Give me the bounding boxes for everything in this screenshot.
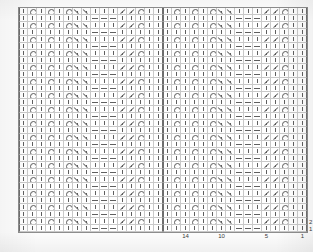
chart-cell[interactable] xyxy=(64,127,73,134)
chart-cell[interactable] xyxy=(154,99,163,106)
chart-cell[interactable] xyxy=(208,162,217,169)
chart-cell[interactable] xyxy=(28,22,37,29)
chart-cell[interactable] xyxy=(235,155,244,162)
chart-cell[interactable] xyxy=(19,29,28,36)
chart-cell[interactable] xyxy=(226,120,235,127)
chart-cell[interactable] xyxy=(154,169,163,176)
chart-cell[interactable] xyxy=(136,78,145,85)
chart-cell[interactable] xyxy=(298,190,307,197)
chart-cell[interactable] xyxy=(127,15,136,22)
chart-cell[interactable] xyxy=(199,148,208,155)
chart-cell[interactable] xyxy=(109,85,118,92)
chart-cell[interactable] xyxy=(127,92,136,99)
chart-cell[interactable] xyxy=(208,211,217,218)
chart-cell[interactable] xyxy=(208,225,217,232)
chart-cell[interactable] xyxy=(163,204,172,211)
chart-cell[interactable] xyxy=(154,127,163,134)
chart-cell[interactable] xyxy=(280,190,289,197)
chart-cell[interactable] xyxy=(190,85,199,92)
chart-cell[interactable] xyxy=(91,197,100,204)
chart-cell[interactable] xyxy=(28,141,37,148)
chart-cell[interactable] xyxy=(109,218,118,225)
chart-cell[interactable] xyxy=(226,148,235,155)
chart-cell[interactable] xyxy=(109,64,118,71)
chart-cell[interactable] xyxy=(271,225,280,232)
chart-cell[interactable] xyxy=(91,64,100,71)
chart-cell[interactable] xyxy=(208,176,217,183)
chart-cell[interactable] xyxy=(244,155,253,162)
chart-cell[interactable] xyxy=(289,36,298,43)
chart-cell[interactable] xyxy=(208,148,217,155)
chart-cell[interactable] xyxy=(199,190,208,197)
chart-cell[interactable] xyxy=(145,8,154,15)
chart-cell[interactable] xyxy=(181,218,190,225)
chart-cell[interactable] xyxy=(244,99,253,106)
chart-cell[interactable] xyxy=(91,169,100,176)
chart-cell[interactable] xyxy=(145,148,154,155)
chart-cell[interactable] xyxy=(118,204,127,211)
chart-cell[interactable] xyxy=(235,141,244,148)
chart-cell[interactable] xyxy=(172,204,181,211)
chart-cell[interactable] xyxy=(73,43,82,50)
chart-cell[interactable] xyxy=(91,218,100,225)
chart-cell[interactable] xyxy=(199,120,208,127)
chart-cell[interactable] xyxy=(145,190,154,197)
chart-cell[interactable] xyxy=(127,85,136,92)
chart-cell[interactable] xyxy=(262,204,271,211)
chart-cell[interactable] xyxy=(262,225,271,232)
chart-cell[interactable] xyxy=(136,8,145,15)
chart-cell[interactable] xyxy=(244,197,253,204)
chart-cell[interactable] xyxy=(19,36,28,43)
chart-cell[interactable] xyxy=(28,211,37,218)
chart-cell[interactable] xyxy=(37,22,46,29)
chart-cell[interactable] xyxy=(19,64,28,71)
chart-cell[interactable] xyxy=(46,218,55,225)
chart-cell[interactable] xyxy=(208,22,217,29)
chart-cell[interactable] xyxy=(28,134,37,141)
chart-cell[interactable] xyxy=(181,85,190,92)
chart-cell[interactable] xyxy=(262,169,271,176)
chart-cell[interactable] xyxy=(163,85,172,92)
chart-cell[interactable] xyxy=(298,120,307,127)
chart-cell[interactable] xyxy=(100,78,109,85)
chart-cell[interactable] xyxy=(262,113,271,120)
chart-cell[interactable] xyxy=(163,197,172,204)
chart-cell[interactable] xyxy=(199,176,208,183)
chart-cell[interactable] xyxy=(82,106,91,113)
chart-cell[interactable] xyxy=(136,218,145,225)
chart-cell[interactable] xyxy=(73,127,82,134)
chart-cell[interactable] xyxy=(82,57,91,64)
chart-cell[interactable] xyxy=(73,197,82,204)
chart-cell[interactable] xyxy=(280,204,289,211)
chart-cell[interactable] xyxy=(217,29,226,36)
chart-cell[interactable] xyxy=(172,225,181,232)
chart-cell[interactable] xyxy=(289,190,298,197)
chart-cell[interactable] xyxy=(136,15,145,22)
chart-cell[interactable] xyxy=(91,211,100,218)
chart-cell[interactable] xyxy=(145,204,154,211)
chart-cell[interactable] xyxy=(244,50,253,57)
chart-cell[interactable] xyxy=(64,190,73,197)
chart-cell[interactable] xyxy=(289,169,298,176)
chart-cell[interactable] xyxy=(253,148,262,155)
chart-cell[interactable] xyxy=(298,22,307,29)
chart-cell[interactable] xyxy=(145,218,154,225)
chart-cell[interactable] xyxy=(244,141,253,148)
chart-cell[interactable] xyxy=(253,22,262,29)
chart-cell[interactable] xyxy=(226,225,235,232)
chart-cell[interactable] xyxy=(271,29,280,36)
chart-cell[interactable] xyxy=(271,211,280,218)
chart-cell[interactable] xyxy=(217,169,226,176)
chart-cell[interactable] xyxy=(91,204,100,211)
chart-cell[interactable] xyxy=(172,134,181,141)
chart-cell[interactable] xyxy=(253,92,262,99)
chart-cell[interactable] xyxy=(226,190,235,197)
chart-cell[interactable] xyxy=(37,204,46,211)
chart-cell[interactable] xyxy=(55,71,64,78)
chart-cell[interactable] xyxy=(37,106,46,113)
chart-cell[interactable] xyxy=(190,204,199,211)
chart-cell[interactable] xyxy=(289,64,298,71)
chart-cell[interactable] xyxy=(127,169,136,176)
chart-cell[interactable] xyxy=(82,29,91,36)
chart-cell[interactable] xyxy=(190,36,199,43)
